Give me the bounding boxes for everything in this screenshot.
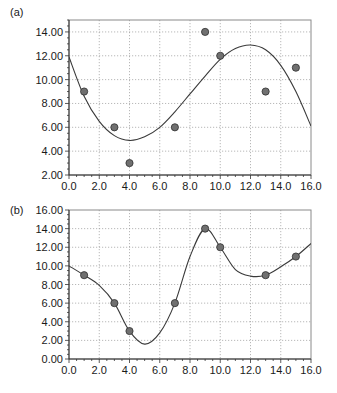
x-tick-label: 8.0 xyxy=(182,180,197,192)
x-tick-label: 10.0 xyxy=(210,364,231,376)
y-tick-label: 6.00 xyxy=(42,121,63,133)
data-point xyxy=(217,244,224,251)
x-tick-label: 2.0 xyxy=(92,180,107,192)
y-tick-label: 8.00 xyxy=(42,97,63,109)
data-point xyxy=(126,159,133,166)
plot-frame xyxy=(69,20,311,175)
y-tick-label: 0.00 xyxy=(42,353,63,365)
data-point xyxy=(262,272,269,279)
y-tick-label: 8.00 xyxy=(42,279,63,291)
panel-label: (b) xyxy=(10,204,23,216)
gridlines xyxy=(69,20,311,175)
data-point xyxy=(217,52,224,59)
chart-panel-b: 0.002.004.006.008.0010.0012.0014.0016.00… xyxy=(10,204,322,376)
x-tick-label: 4.0 xyxy=(122,364,137,376)
x-tick-label: 14.0 xyxy=(270,180,291,192)
chart-canvas: 2.004.006.008.0010.0012.0014.000.02.04.0… xyxy=(0,0,337,393)
x-tick-label: 16.0 xyxy=(300,180,321,192)
data-point xyxy=(126,327,133,334)
data-point xyxy=(202,225,209,232)
x-tick-label: 4.0 xyxy=(122,180,137,192)
x-tick-label: 2.0 xyxy=(92,364,107,376)
panel-label: (a) xyxy=(10,6,23,18)
y-tick-label: 4.00 xyxy=(42,316,63,328)
y-tick-label: 10.00 xyxy=(35,74,63,86)
x-tick-label: 0.0 xyxy=(61,364,76,376)
data-point xyxy=(202,28,209,35)
data-point xyxy=(111,300,118,307)
data-point xyxy=(81,88,88,95)
data-point xyxy=(292,253,299,260)
y-tick-label: 14.00 xyxy=(35,223,63,235)
x-tick-label: 6.0 xyxy=(152,364,167,376)
data-point xyxy=(81,272,88,279)
x-tick-label: 8.0 xyxy=(182,364,197,376)
y-tick-label: 6.00 xyxy=(42,297,63,309)
x-tick-label: 14.0 xyxy=(270,364,291,376)
y-tick-label: 10.00 xyxy=(35,260,63,272)
fit-curve xyxy=(69,229,311,345)
data-point xyxy=(171,300,178,307)
y-tick-label: 4.00 xyxy=(42,145,63,157)
chart-panel-a: 2.004.006.008.0010.0012.0014.000.02.04.0… xyxy=(10,6,322,192)
x-tick-label: 12.0 xyxy=(240,364,261,376)
x-tick-label: 16.0 xyxy=(300,364,321,376)
x-tick-label: 0.0 xyxy=(61,180,76,192)
data-point xyxy=(111,124,118,131)
y-tick-label: 14.00 xyxy=(35,26,63,38)
y-tick-label: 12.00 xyxy=(35,50,63,62)
gridlines xyxy=(69,210,311,359)
y-tick-label: 2.00 xyxy=(42,169,63,181)
y-tick-label: 12.00 xyxy=(35,241,63,253)
x-tick-label: 6.0 xyxy=(152,180,167,192)
x-tick-label: 12.0 xyxy=(240,180,261,192)
y-tick-label: 16.00 xyxy=(35,204,63,216)
x-tick-label: 10.0 xyxy=(210,180,231,192)
data-point xyxy=(262,88,269,95)
data-point xyxy=(171,124,178,131)
data-point xyxy=(292,64,299,71)
y-tick-label: 2.00 xyxy=(42,334,63,346)
